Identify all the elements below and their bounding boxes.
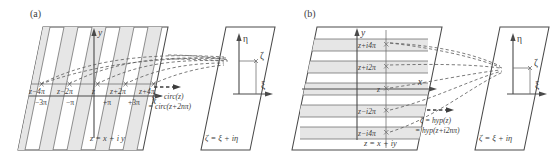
panel-a-strip-label-3: z+2π [109, 87, 126, 96]
panel-b-source-plane-label: z = x + iy [363, 139, 397, 148]
panel-a-y-axis-label: y [97, 28, 103, 38]
panel-a-tag: (a) [30, 8, 41, 20]
panel-a-strip-label-2: z [91, 87, 95, 96]
panel-b-y-axis-label: y [360, 28, 366, 38]
panel-a-tick-label-1: −π [66, 98, 74, 107]
panel-b-strip-label-1: z+i2π [357, 63, 376, 72]
panel-b-x-axis-label: x [417, 77, 423, 87]
panel-a-mapping-arrowhead [173, 84, 181, 90]
panel-b-xi-axis-arrow [539, 91, 547, 96]
panel-a-source-plane-label: z = x + i y [89, 134, 125, 143]
panel-a-eta-axis-arrow [236, 33, 241, 41]
panel-b-zeta-label: ζ [534, 58, 538, 69]
panel-a-xi-axis-label: ξ [261, 80, 266, 91]
panel-b-mapping-arrowhead [446, 107, 454, 113]
panel-b-x-axis-arrow [429, 86, 437, 91]
panel-a: y x z−4π z−2π z z+2π z+4π −3π −π +π +3π … [11, 8, 275, 150]
panel-a-tick-label-2: +π [103, 98, 111, 107]
panel-b-eta-axis-arrow [510, 33, 515, 41]
panel-b: y x z+i4π z+i2π z z−i2π z−i4π z = x + iy [292, 8, 549, 150]
panel-b-tag: (b) [304, 8, 316, 20]
panel-a-tick-label-3: +3π [128, 98, 140, 107]
panel-a-tick-label-0: −3π [35, 98, 47, 107]
panel-a-mapping-line2: = circ(z+2nπ) [148, 102, 192, 111]
panel-a-strip-label-1: z−2π [56, 87, 73, 96]
panel-a-xi-axis-arrow [265, 91, 273, 96]
figure-root: y x z−4π z−2π z z+2π z+4π −3π −π +π +3π … [0, 0, 552, 167]
panel-b-mapping-line1: ζ = hyp(z) [420, 116, 451, 125]
panel-a-strip-label-0: z−4π [28, 87, 45, 96]
complex-mapping-figure: y x z−4π z−2π z z+2π z+4π −3π −π +π +3π … [0, 0, 552, 167]
panel-b-strip-label-0: z+i4π [357, 41, 376, 50]
panel-a-target-plane-label: ζ = ξ + iη [205, 134, 238, 143]
panel-b-eta-axis-label: η [517, 34, 522, 44]
panel-b-strip-label-3: z−i2π [357, 107, 376, 116]
panel-b-y-axis-arrow [354, 28, 359, 36]
panel-a-mapping-line1: ζ = circ(z) [152, 92, 184, 101]
panel-b-target-plane-label: ζ = ξ + iη [479, 134, 512, 143]
panel-b-strip-label-4: z−i4π [357, 129, 376, 138]
panel-a-zeta-label: ζ [260, 51, 264, 62]
panel-b-xi-axis-label: ξ [535, 80, 540, 91]
panel-b-strip-label-2: z [376, 85, 380, 94]
panel-a-eta-axis-label: η [243, 34, 248, 44]
panel-b-mapping-line2: = hyp(z+i2nπ) [415, 126, 460, 135]
